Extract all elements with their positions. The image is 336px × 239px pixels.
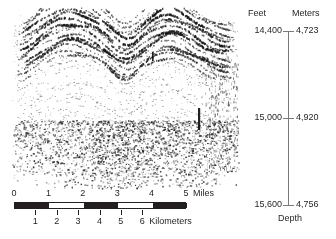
miles-tick-0: 0 <box>11 188 16 199</box>
miles-tick-1: 1 <box>46 188 51 199</box>
km-tick-mark-5 <box>121 210 122 215</box>
horizontal-scale-bar: 012345Miles 123456Kilometers <box>14 188 186 236</box>
depth-tick-feet-0: 14,400 <box>254 25 282 36</box>
km-tick-4: 4 <box>97 216 102 227</box>
depth-tick-mark-2 <box>283 205 294 206</box>
miles-tick-labels: 012345Miles <box>14 188 186 200</box>
feet-header-label: Feet <box>248 7 266 19</box>
depth-tick-feet-1: 15,000 <box>254 112 282 123</box>
miles-tick-4: 4 <box>149 188 154 199</box>
miles-unit-label: Miles <box>193 188 214 199</box>
scale-bar-segment-0 <box>15 203 49 208</box>
km-tick-2: 2 <box>54 216 59 227</box>
km-tick-mark-4 <box>100 210 101 215</box>
miles-tick-5: 5 <box>183 188 188 199</box>
depth-axis-caption: Depth <box>244 213 336 224</box>
km-tick-3: 3 <box>76 216 81 227</box>
depth-tick-meters-0: 4,723 <box>296 25 319 36</box>
km-tick-mark-6 <box>142 210 143 215</box>
km-tick-mark-3 <box>78 210 79 215</box>
kilometers-unit-label: Kilometers <box>149 216 192 227</box>
seismic-profile-panel <box>0 0 248 190</box>
depth-tick-mark-0 <box>283 31 294 32</box>
km-tick-mark-1 <box>35 210 36 215</box>
depth-axis-headers: Feet Meters <box>244 7 336 19</box>
scale-bar-segment-1 <box>84 203 118 208</box>
seismic-profile-image <box>0 0 248 190</box>
depth-axis: Feet Meters 14,4004,72315,0004,92015,600… <box>244 0 336 239</box>
depth-tick-meters-2: 4,756 <box>296 199 319 210</box>
miles-tick-3: 3 <box>115 188 120 199</box>
depth-tick-feet-2: 15,600 <box>254 199 282 210</box>
depth-tick-meters-1: 4,920 <box>296 112 319 123</box>
miles-tick-2: 2 <box>80 188 85 199</box>
scale-bar-graphic <box>14 202 186 209</box>
km-tick-1: 1 <box>33 216 38 227</box>
km-tick-mark-2 <box>57 210 58 215</box>
kilometers-tick-labels: 123456Kilometers <box>14 216 186 228</box>
km-tick-5: 5 <box>118 216 123 227</box>
meters-header-label: Meters <box>292 7 320 19</box>
km-tick-6: 6 <box>140 216 145 227</box>
scale-bar-segment-2 <box>153 203 187 208</box>
depth-tick-mark-1 <box>283 118 294 119</box>
